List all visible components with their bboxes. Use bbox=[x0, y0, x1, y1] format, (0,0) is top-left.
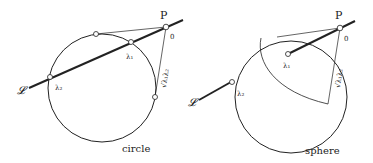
intersection-lambda2 bbox=[48, 75, 53, 80]
intersection-lambda1 bbox=[129, 40, 134, 45]
label-lambda2: λ₂ bbox=[237, 90, 244, 98]
point-lambda1 bbox=[286, 52, 291, 57]
label-lambda1: λ₁ bbox=[126, 53, 133, 61]
caption-circle: circle bbox=[122, 143, 150, 154]
figure: P 0 λ₁ λ₂ 𝓛 √λ₁λ₂ circle P 0 λ₁ λ₂ 𝓛 √λ₁… bbox=[0, 0, 373, 163]
circle bbox=[48, 34, 156, 142]
label-sqrt: √λ₁λ₂ bbox=[160, 68, 171, 88]
label-sqrt: √λ₁λ₂ bbox=[334, 68, 345, 88]
point-P bbox=[337, 25, 343, 31]
label-lambda2: λ₂ bbox=[55, 84, 62, 92]
sphere-diagram: P 0 λ₁ λ₂ 𝓛 √λ₁λ₂ sphere bbox=[188, 9, 355, 156]
tangent-point-right bbox=[153, 95, 158, 100]
point-lambda2 bbox=[230, 80, 235, 85]
line-L-lower bbox=[199, 82, 231, 100]
circle-diagram: P 0 λ₁ λ₂ 𝓛 √λ₁λ₂ circle bbox=[17, 9, 183, 154]
label-L: 𝓛 bbox=[188, 96, 199, 109]
label-lambda1: λ₁ bbox=[283, 62, 290, 70]
label-P: P bbox=[160, 9, 168, 22]
label-L: 𝓛 bbox=[17, 84, 28, 97]
caption-sphere: sphere bbox=[305, 145, 340, 156]
label-zero: 0 bbox=[170, 33, 174, 41]
point-P bbox=[163, 24, 169, 30]
sphere-outline bbox=[235, 41, 347, 153]
label-P: P bbox=[335, 9, 343, 22]
tangent-point-top bbox=[94, 32, 99, 37]
label-zero: 0 bbox=[344, 35, 348, 43]
